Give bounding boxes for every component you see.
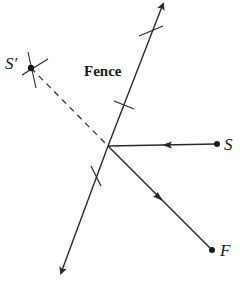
diagram-canvas xyxy=(0,0,240,281)
label-f: F xyxy=(220,242,230,259)
reflection-diagram: S′ Fence S F xyxy=(0,0,240,281)
label-s-prime: S′ xyxy=(5,55,17,72)
incident-ray xyxy=(108,142,217,149)
fence-line xyxy=(61,4,163,273)
dashed-reflection-line xyxy=(31,68,108,146)
label-s: S xyxy=(224,136,233,153)
point-f xyxy=(209,247,215,253)
point-s xyxy=(214,141,220,147)
point-s-prime xyxy=(28,65,34,71)
tick-mark-middle xyxy=(114,101,134,109)
label-fence: Fence xyxy=(84,64,121,79)
reflected-ray xyxy=(108,146,212,250)
s-prime-construction-marks xyxy=(22,52,48,88)
